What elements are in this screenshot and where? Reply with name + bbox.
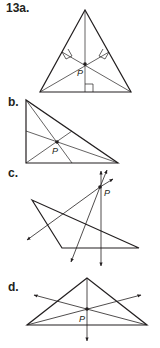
diagram-d bbox=[27, 278, 147, 341]
point-p-a bbox=[83, 62, 87, 66]
point-label-b: P bbox=[52, 146, 58, 156]
point-label-d: P bbox=[79, 314, 85, 324]
point-p-c bbox=[98, 185, 102, 189]
point-p-b bbox=[55, 140, 59, 144]
triangle-a bbox=[40, 10, 131, 92]
diagram-b bbox=[26, 100, 118, 163]
geometry-figure: P P P P bbox=[0, 0, 160, 348]
right-angle-mark bbox=[62, 49, 72, 59]
right-angle-mark bbox=[85, 84, 93, 92]
point-p-d bbox=[85, 307, 89, 311]
altitude-a3 bbox=[62, 52, 131, 92]
diagram-c bbox=[27, 170, 139, 266]
point-label-a: P bbox=[77, 68, 83, 78]
diagram-a bbox=[40, 10, 131, 92]
point-label-c: P bbox=[104, 188, 110, 198]
